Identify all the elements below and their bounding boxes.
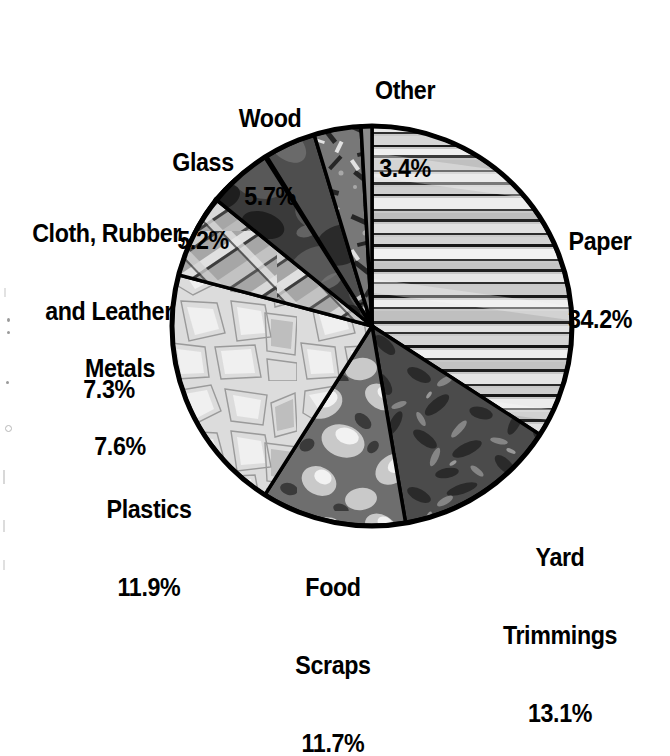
pie-label-other-name: Other	[349, 77, 461, 103]
scan-artifact	[3, 520, 5, 532]
pie-label-yard-trimmings: Yard Trimmings 13.1%	[467, 492, 653, 756]
pie-label-plastics-value: 11.9%	[79, 574, 219, 600]
pie-label-cloth-line1: Cloth, Rubber,	[15, 220, 203, 246]
pie-label-paper-name: Paper	[540, 228, 659, 254]
scan-artifact	[4, 288, 6, 297]
scan-artifact	[7, 331, 10, 334]
scan-artifact	[6, 381, 9, 384]
pie-label-yard-line2: Trimmings	[467, 622, 653, 648]
pie-label-food-scraps: Food Scraps 11.7%	[267, 522, 399, 756]
scan-artifact	[3, 560, 5, 570]
pie-label-paper-value: 34.2%	[540, 306, 659, 332]
pie-label-yard-value: 13.1%	[467, 700, 653, 726]
pie-label-food-line1: Food	[267, 574, 399, 600]
pie-label-plastics: Plastics 11.9%	[79, 444, 219, 652]
pie-label-yard-line1: Yard	[467, 544, 653, 570]
pie-label-other-value: 3.4%	[349, 155, 461, 181]
scan-artifact	[7, 318, 10, 322]
pie-label-paper: Paper 34.2%	[540, 176, 659, 384]
scan-artifact	[3, 470, 5, 484]
pie-label-metals-name: Metals	[57, 355, 183, 381]
pie-label-other: Other 3.4%	[349, 25, 461, 233]
pie-label-food-value: 11.7%	[267, 730, 399, 756]
scan-artifact	[5, 425, 12, 432]
pie-label-food-line2: Scraps	[267, 652, 399, 678]
pie-label-plastics-name: Plastics	[79, 496, 219, 522]
